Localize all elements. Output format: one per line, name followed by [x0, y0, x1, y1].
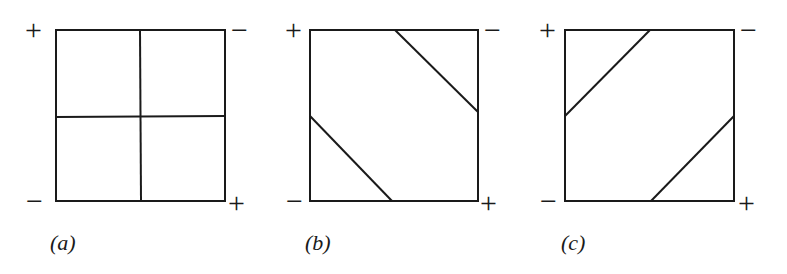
panel-a-caption: (a): [50, 230, 76, 255]
panel-b-caption: (b): [305, 230, 331, 255]
panel-a: [56, 30, 225, 201]
panel-b: [310, 30, 478, 201]
panel-b-top-right-cut: [395, 30, 478, 112]
panel-b-bottom-left-cut: [310, 116, 392, 201]
panel-a-horizontal-divider: [56, 116, 225, 117]
panel-c-caption: (c): [561, 230, 585, 255]
panel-b-square: [310, 30, 478, 201]
panel-c: [565, 30, 734, 201]
figure-canvas: + − − + (a) + − − + (b) + − − + (c): [0, 0, 787, 274]
panel-c-bottom-left-sign: −: [540, 184, 557, 217]
panel-a-top-left-sign: +: [25, 13, 42, 46]
panel-c-square: [565, 30, 734, 201]
panel-c-bottom-right-cut: [651, 116, 734, 201]
panel-a-top-right-sign: −: [231, 13, 248, 46]
panel-c-top-left-cut: [565, 30, 650, 116]
panel-a-bottom-right-sign: +: [228, 186, 245, 219]
panel-b-bottom-left-sign: −: [286, 184, 303, 217]
panel-b-bottom-right-sign: +: [480, 186, 497, 219]
panel-a-bottom-left-sign: −: [26, 184, 43, 217]
panel-b-top-right-sign: −: [484, 13, 501, 46]
panel-c-top-left-sign: +: [539, 13, 556, 46]
panel-c-top-right-sign: −: [740, 13, 757, 46]
panel-b-top-left-sign: +: [285, 13, 302, 46]
panel-c-bottom-right-sign: +: [738, 186, 755, 219]
